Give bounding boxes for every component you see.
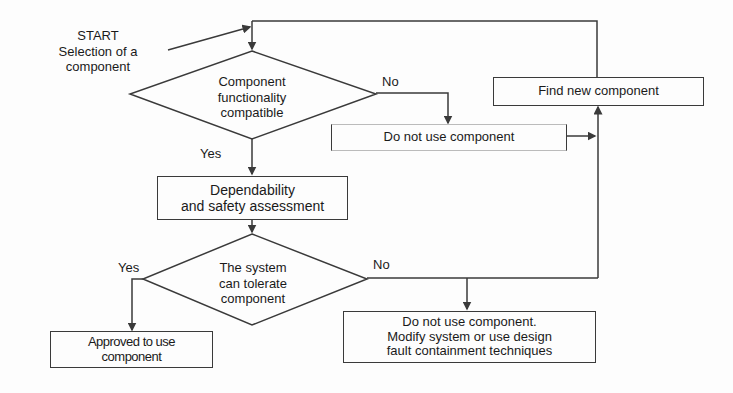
assessment-line2: and safety assessment [181,198,324,214]
decision2-yes-label: Yes [118,260,139,275]
assessment-line1: Dependability [181,182,324,198]
decision1-line2: functionality [192,90,312,106]
start-text: START [38,28,158,44]
do-not-use-component-box: Do not use component [331,124,567,151]
decision1-yes-label: Yes [200,146,221,161]
start-label: START Selection of a component [38,28,158,75]
decision-system-tolerate: The system can tolerate component [195,260,311,307]
approved-line2: component [88,350,175,365]
decision1-line1: Component [192,74,312,90]
modify-line1: Do not use component. [387,315,553,330]
decision-functionality-compatible: Component functionality compatible [192,74,312,121]
modify-system-box: Do not use component. Modify system or u… [343,311,596,363]
find-new-text: Find new component [538,84,659,99]
modify-line2: Modify system or use design [387,330,553,345]
modify-line3: fault containment techniques [387,344,553,359]
start-text-line2: Selection of a [38,44,158,60]
find-new-component-box: Find new component [493,77,704,106]
decision2-line1: The system [195,260,311,276]
decision1-line3: compatible [192,105,312,121]
do-not-use-text: Do not use component [384,130,515,145]
approved-to-use-box: Approved to use component [50,331,213,368]
decision1-no-label: No [382,74,399,89]
decision2-line2: can tolerate [195,276,311,292]
start-text-line3: component [38,59,158,75]
dependability-assessment-box: Dependability and safety assessment [157,176,348,220]
decision2-no-label: No [373,257,390,272]
decision2-line3: component [195,291,311,307]
approved-line1: Approved to use [88,335,175,350]
